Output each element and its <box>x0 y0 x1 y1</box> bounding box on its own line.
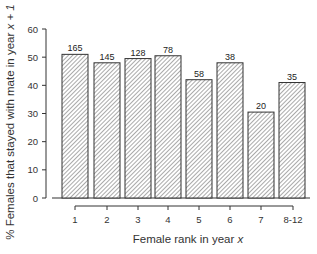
bar <box>62 54 88 198</box>
bar-value-label: 20 <box>256 101 266 111</box>
bar <box>217 63 243 198</box>
y-tick-label: 20 <box>27 136 38 147</box>
y-axis-title-text: % Females that stayed with mate in year <box>4 29 16 239</box>
bar-value-label: 145 <box>99 52 114 62</box>
y-tick-label: 60 <box>27 24 38 35</box>
bar <box>155 56 181 198</box>
x-tick-label: 1 <box>72 214 77 225</box>
x-tick-label: 8-12 <box>283 214 302 225</box>
bar-value-label: 35 <box>287 72 297 82</box>
x-tick-label: 5 <box>196 214 201 225</box>
bar-value-label: 78 <box>163 45 173 55</box>
x-tick-label: 2 <box>104 214 109 225</box>
bar-chart: 0102030405060 1651451287858382035 123456… <box>0 0 317 254</box>
bar <box>186 80 212 198</box>
bar-value-label: 58 <box>194 69 204 79</box>
bars: 1651451287858382035 <box>52 43 310 198</box>
y-axis: 0102030405060 <box>27 24 46 204</box>
x-tick-label: 7 <box>258 214 263 225</box>
x-tick-label: 3 <box>135 214 140 225</box>
bar-value-label: 38 <box>225 52 235 62</box>
y-axis-title-var: x + 1 <box>4 4 16 29</box>
x-axis-title: Female rank in year x <box>133 233 244 245</box>
bar <box>279 83 305 198</box>
x-tick-label: 4 <box>165 214 170 225</box>
bar <box>248 112 274 198</box>
y-axis-title: % Females that stayed with mate in year … <box>4 4 16 240</box>
x-axis-title-var: x <box>238 233 244 245</box>
x-axis: 12345678-12 <box>72 206 302 225</box>
y-tick-label: 0 <box>33 193 38 204</box>
bar-value-label: 165 <box>67 43 82 53</box>
x-tick-label: 6 <box>227 214 232 225</box>
y-axis-title-wrap: % Females that stayed with mate in year … <box>0 0 20 254</box>
bar <box>125 59 151 198</box>
y-tick-label: 40 <box>27 80 38 91</box>
y-tick-label: 10 <box>27 164 38 175</box>
y-tick-label: 30 <box>27 108 38 119</box>
bar-value-label: 128 <box>130 48 145 58</box>
x-axis-title-text: Female rank in year <box>133 233 238 245</box>
y-tick-label: 50 <box>27 52 38 63</box>
bar <box>94 63 120 198</box>
